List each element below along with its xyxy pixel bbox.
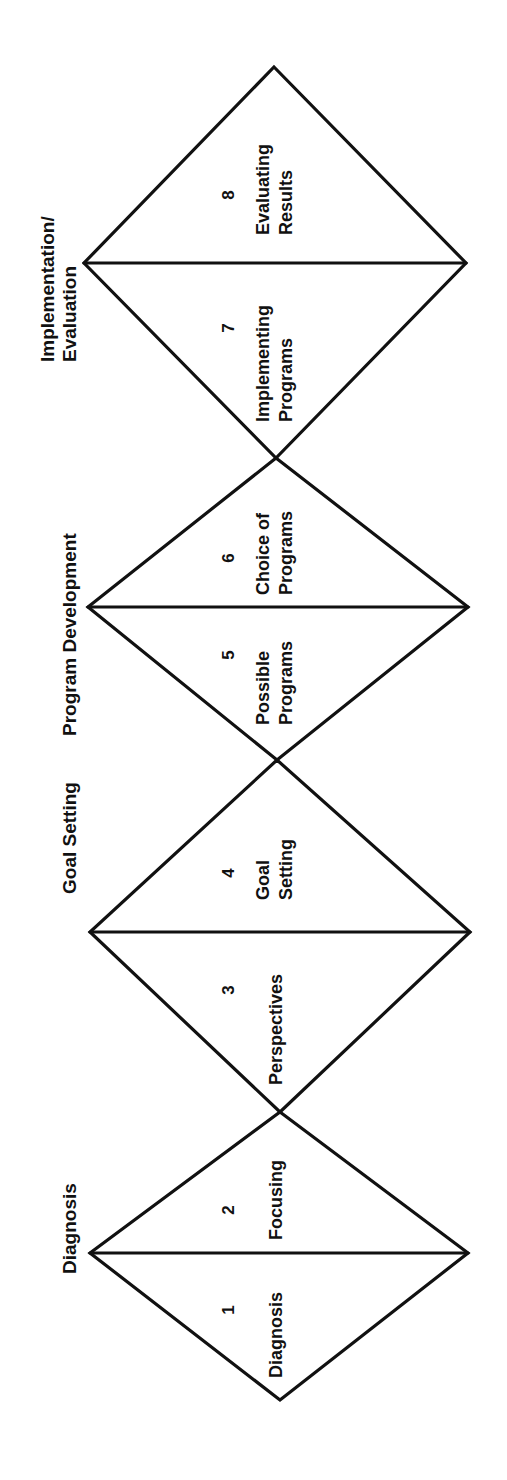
process-diagram: Implementation/ Evaluation Program Devel… [0,0,507,1480]
step-name-1: Diagnosis [266,1292,286,1378]
step-number-1: 1 [219,1305,238,1314]
phase-label-goal-setting: Goal Setting [59,782,80,894]
step-name-6-line2: Programs [276,511,296,595]
step-number-8: 8 [219,190,238,199]
step-name-2: Focusing [266,1160,286,1240]
step-name-6-line1: Choice of [253,512,273,595]
step-number-5: 5 [219,650,238,659]
phase-labels: Implementation/ Evaluation Program Devel… [37,216,80,1274]
step-name-8-line1: Evaluating [253,144,273,235]
step-name-4-line2: Setting [276,839,296,900]
step-name-5-line1: Possible [253,651,273,725]
step-number-7: 7 [219,323,238,332]
step-number-3: 3 [219,985,238,994]
step-name-7-line2: Programs [276,338,296,422]
step-name-7-line1: Implementing [253,305,273,422]
step-number-6: 6 [219,553,238,562]
phase-label-diagnosis: Diagnosis [59,1183,80,1274]
step-name-3: Perspectives [266,974,286,1085]
step-name-8-line2: Results [276,170,296,235]
phase-label-implementation-line1: Implementation/ [37,216,58,362]
step-name-5-line2: Programs [276,641,296,725]
phase-label-program-development: Program Development [59,533,80,736]
step-number-2: 2 [219,1205,238,1214]
phase-label-implementation-line2: Evaluation [59,266,80,362]
diamond-implementation-evaluation [84,67,466,458]
step-number-4: 4 [219,868,238,878]
step-name-4-line1: Goal [253,860,273,900]
